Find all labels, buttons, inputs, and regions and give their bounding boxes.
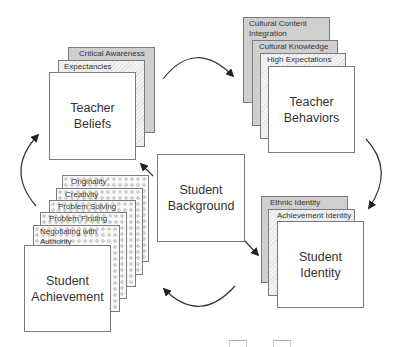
node-teacher-beliefs: Teacher Beliefs [49,72,136,160]
arrow-beliefs-to-behaviors [163,58,233,79]
node-title: Student Background [168,182,235,214]
layer-label: Problem Finding [49,214,107,224]
layer-label: Cultural Content Integration [249,19,307,39]
node-teacher-behaviors: Teacher Behaviors [268,66,355,153]
layer-label: Expectancies [64,62,112,72]
layer-label: Cultural Knowledge [259,42,328,52]
arrow-achievement-to-beliefs [21,135,38,206]
node-student-background: Student Background [157,154,245,242]
layer-label: Achievement Identity [277,211,351,221]
node-student-identity: Student Identity [277,221,364,308]
layer-label: High Expectations [267,55,331,65]
layer-label: Negotiating with Authority [40,227,97,247]
layer-label: Creativity [65,190,98,200]
node-title: Student Identity [299,249,342,281]
node-title: Student Achievement [31,273,103,305]
node-title: Teacher Beliefs [70,100,114,132]
layer-label: Ethnic Identity [270,198,320,208]
layer-label: Problem Solving [58,202,116,212]
layer-label: Originality [71,177,107,187]
cropped-box-edge [229,340,247,347]
cropped-box-edge [273,340,291,347]
arrow-background-to-identity [245,241,258,255]
layer-label: Critical Awareness [79,49,145,59]
arrow-identity-to-achievement [164,286,235,306]
node-student-achievement: Student Achievement [24,245,111,332]
node-title: Teacher Behaviors [284,94,340,126]
arrow-behaviors-to-identity [366,139,381,208]
